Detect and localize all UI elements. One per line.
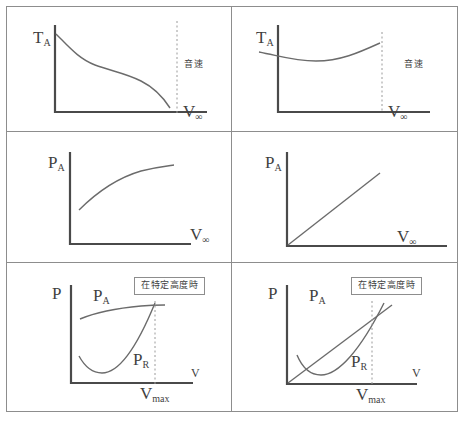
x-axis-label-5: V (191, 367, 200, 379)
curve-label-pa-6: PA (309, 287, 326, 304)
panel-top-left: TA 音速 V∞ (7, 7, 232, 132)
curve-thrust-available-1 (56, 34, 170, 108)
x-tick-label-vmax-5: Vmax (140, 385, 170, 402)
curve-power-available-4 (288, 173, 380, 245)
curve-label-pr-5: PR (133, 351, 149, 368)
x-axis-label-6: V (412, 367, 421, 379)
sonic-annotation-1: 音速 (184, 60, 203, 69)
plot-area-6: P PA PR V Vmax 在特定高度時 (232, 263, 457, 411)
figure-frame: TA 音速 V∞ TA 音速 V∞ (6, 6, 458, 412)
plot-area-5: P PA PR V Vmax 在特定高度時 (7, 263, 231, 411)
y-axis-label-1: TA (33, 29, 51, 46)
plot-area-1: TA 音速 V∞ (7, 7, 231, 131)
curve-label-pa-5: PA (93, 287, 110, 304)
plot-area-4: PA V∞ (232, 132, 457, 262)
curve-power-available-5 (80, 305, 165, 319)
callout-altitude-5: 在特定高度時 (134, 277, 205, 295)
sonic-annotation-2: 音速 (404, 60, 423, 69)
panel-bottom-right: P PA PR V Vmax 在特定高度時 (232, 263, 457, 411)
callout-altitude-6: 在特定高度時 (351, 277, 422, 295)
chart-svg-2 (232, 7, 457, 132)
plot-area-2: TA 音速 V∞ (232, 7, 457, 131)
x-axis-label-4: V∞ (397, 228, 416, 245)
panel-top-right: TA 音速 V∞ (232, 7, 457, 132)
curve-label-pr-6: PR (351, 353, 367, 370)
curve-power-required-6 (297, 303, 384, 375)
panel-grid: TA 音速 V∞ TA 音速 V∞ (7, 7, 457, 411)
y-axis-label-5: P (52, 285, 61, 302)
plot-area-3: PA V∞ (7, 132, 231, 262)
panel-middle-right: PA V∞ (232, 132, 457, 263)
x-axis-label-2: V∞ (388, 103, 407, 120)
y-axis-label-3: PA (48, 154, 65, 171)
axis-lines-4 (287, 152, 447, 246)
y-axis-label-6: P (268, 285, 277, 302)
x-tick-label-vmax-6: Vmax (356, 386, 386, 403)
y-axis-label-2: TA (256, 29, 274, 46)
chart-svg-6 (232, 263, 457, 411)
y-axis-label-4: PA (265, 154, 282, 171)
chart-svg-4 (232, 132, 457, 263)
panel-middle-left: PA V∞ (7, 132, 232, 263)
curve-power-available-3 (79, 165, 174, 210)
x-axis-label-3: V∞ (190, 226, 209, 243)
x-axis-label-1: V∞ (183, 103, 202, 120)
panel-bottom-left: P PA PR V Vmax 在特定高度時 (7, 263, 232, 411)
